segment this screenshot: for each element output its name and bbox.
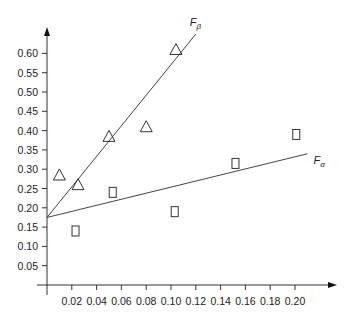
y-tick-label: 0.45 <box>18 105 39 117</box>
y-tick-label: 0.25 <box>18 183 39 195</box>
line-label-f-beta: Fβ <box>190 16 202 31</box>
fit-line-f-beta <box>47 34 196 217</box>
triangle-marker-icon <box>53 169 65 180</box>
x-tick-label: 0.10 <box>161 295 182 307</box>
y-tick-label: 0.15 <box>18 221 39 233</box>
y-tick-label: 0.40 <box>18 125 39 137</box>
axes <box>37 27 337 295</box>
x-tick-label: 0.16 <box>235 295 256 307</box>
x-tick-label: 0.20 <box>285 295 306 307</box>
tick-labels: 0.050.100.150.200.250.300.350.400.450.50… <box>18 47 306 307</box>
square-marker-icon <box>109 187 116 197</box>
y-tick-label: 0.35 <box>18 144 39 156</box>
y-tick-label: 0.05 <box>18 260 39 272</box>
triangle-marker-icon <box>140 121 152 132</box>
x-tick-label: 0.02 <box>62 295 83 307</box>
y-tick-label: 0.60 <box>18 47 39 59</box>
y-axis-arrow-icon <box>44 27 50 36</box>
x-axis-arrow-icon <box>328 282 337 288</box>
fit-line-f-alpha <box>47 154 307 218</box>
x-tick-label: 0.12 <box>186 295 207 307</box>
y-tick-label: 0.50 <box>18 86 39 98</box>
x-tick-label: 0.14 <box>210 295 231 307</box>
y-tick-label: 0.30 <box>18 163 39 175</box>
y-tick-label: 0.20 <box>18 202 39 214</box>
y-tick-label: 0.55 <box>18 67 39 79</box>
x-tick-label: 0.08 <box>136 295 157 307</box>
x-tick-label: 0.04 <box>86 295 107 307</box>
square-marker-icon <box>232 158 239 168</box>
y-tick-label: 0.10 <box>18 240 39 252</box>
fit-lines <box>47 34 307 217</box>
square-marker-icon <box>171 207 178 217</box>
x-tick-label: 0.06 <box>111 295 132 307</box>
line-label-f-alpha: Fα <box>313 154 325 169</box>
scatter-chart: 0.050.100.150.200.250.300.350.400.450.50… <box>0 0 355 319</box>
square-marker-icon <box>72 226 79 236</box>
line-labels: FβFα <box>190 16 325 169</box>
x-tick-label: 0.18 <box>260 295 281 307</box>
square-marker-icon <box>293 129 300 139</box>
